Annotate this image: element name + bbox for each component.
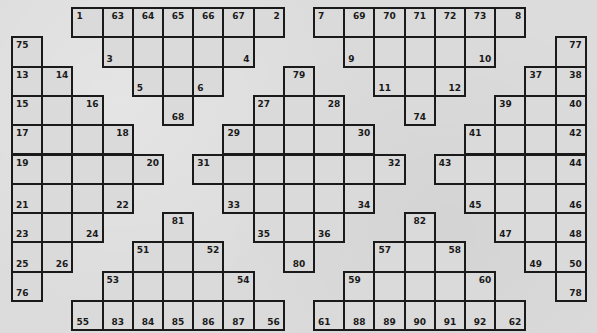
crossword-cell[interactable]: [71, 154, 103, 185]
crossword-cell[interactable]: [373, 36, 405, 67]
crossword-cell[interactable]: 9: [343, 36, 375, 67]
crossword-cell[interactable]: [162, 66, 194, 97]
crossword-cell[interactable]: [524, 95, 556, 126]
crossword-cell[interactable]: [524, 154, 556, 185]
crossword-cell[interactable]: [222, 154, 254, 185]
crossword-cell[interactable]: [162, 36, 194, 67]
crossword-cell[interactable]: 34: [343, 183, 375, 214]
crossword-cell[interactable]: 85: [162, 300, 194, 331]
crossword-cell[interactable]: 57: [373, 241, 405, 272]
crossword-cell[interactable]: 3: [102, 36, 134, 67]
crossword-cell[interactable]: 72: [434, 7, 466, 38]
crossword-cell[interactable]: 29: [222, 124, 254, 155]
crossword-cell[interactable]: 82: [404, 212, 436, 243]
crossword-cell[interactable]: [132, 36, 164, 67]
crossword-cell[interactable]: 51: [132, 241, 164, 272]
crossword-cell[interactable]: 10: [464, 36, 496, 67]
crossword-cell[interactable]: 4: [222, 36, 254, 67]
crossword-cell[interactable]: 79: [283, 66, 315, 97]
crossword-cell[interactable]: [283, 154, 315, 185]
crossword-cell[interactable]: 23: [11, 212, 43, 243]
crossword-cell[interactable]: 35: [253, 212, 285, 243]
crossword-cell[interactable]: 56: [253, 300, 285, 331]
crossword-cell[interactable]: 12: [434, 66, 466, 97]
crossword-cell[interactable]: 16: [71, 95, 103, 126]
crossword-cell[interactable]: 46: [555, 183, 587, 214]
crossword-cell[interactable]: 2: [253, 7, 285, 38]
crossword-cell[interactable]: 80: [283, 241, 315, 272]
crossword-cell[interactable]: [313, 124, 345, 155]
crossword-cell[interactable]: 65: [162, 7, 194, 38]
crossword-cell[interactable]: [373, 271, 405, 302]
crossword-cell[interactable]: 26: [41, 241, 73, 272]
crossword-cell[interactable]: [524, 183, 556, 214]
crossword-cell[interactable]: [162, 241, 194, 272]
crossword-cell[interactable]: 75: [11, 36, 43, 67]
crossword-cell[interactable]: [41, 183, 73, 214]
crossword-cell[interactable]: 5: [132, 66, 164, 97]
crossword-cell[interactable]: [192, 271, 224, 302]
crossword-cell[interactable]: 68: [162, 95, 194, 126]
crossword-cell[interactable]: [283, 212, 315, 243]
crossword-cell[interactable]: [494, 183, 526, 214]
crossword-cell[interactable]: 90: [404, 300, 436, 331]
crossword-cell[interactable]: [524, 124, 556, 155]
crossword-cell[interactable]: [343, 154, 375, 185]
crossword-cell[interactable]: 88: [343, 300, 375, 331]
crossword-cell[interactable]: 36: [313, 212, 345, 243]
crossword-cell[interactable]: [464, 154, 496, 185]
crossword-cell[interactable]: 81: [162, 212, 194, 243]
crossword-cell[interactable]: 78: [555, 271, 587, 302]
crossword-cell[interactable]: [71, 183, 103, 214]
crossword-cell[interactable]: [434, 271, 466, 302]
crossword-cell[interactable]: 45: [464, 183, 496, 214]
crossword-cell[interactable]: 55: [71, 300, 103, 331]
crossword-cell[interactable]: [434, 36, 466, 67]
crossword-cell[interactable]: [404, 271, 436, 302]
crossword-cell[interactable]: [283, 124, 315, 155]
crossword-cell[interactable]: 24: [71, 212, 103, 243]
crossword-cell[interactable]: 84: [132, 300, 164, 331]
crossword-cell[interactable]: [192, 36, 224, 67]
crossword-cell[interactable]: 28: [313, 95, 345, 126]
crossword-cell[interactable]: 18: [102, 124, 134, 155]
crossword-cell[interactable]: [404, 241, 436, 272]
crossword-cell[interactable]: [162, 271, 194, 302]
crossword-cell[interactable]: 54: [222, 271, 254, 302]
crossword-cell[interactable]: 69: [343, 7, 375, 38]
crossword-cell[interactable]: [494, 154, 526, 185]
crossword-cell[interactable]: 86: [192, 300, 224, 331]
crossword-cell[interactable]: 91: [434, 300, 466, 331]
crossword-cell[interactable]: 40: [555, 95, 587, 126]
crossword-cell[interactable]: [313, 183, 345, 214]
crossword-cell[interactable]: 7: [313, 7, 345, 38]
crossword-cell[interactable]: 33: [222, 183, 254, 214]
crossword-cell[interactable]: 53: [102, 271, 134, 302]
crossword-cell[interactable]: 13: [11, 66, 43, 97]
crossword-cell[interactable]: 27: [253, 95, 285, 126]
crossword-cell[interactable]: [283, 183, 315, 214]
crossword-cell[interactable]: 50: [555, 241, 587, 272]
crossword-cell[interactable]: 74: [404, 95, 436, 126]
crossword-cell[interactable]: 41: [464, 124, 496, 155]
crossword-cell[interactable]: [41, 95, 73, 126]
crossword-cell[interactable]: 92: [464, 300, 496, 331]
crossword-cell[interactable]: 21: [11, 183, 43, 214]
crossword-cell[interactable]: 20: [132, 154, 164, 185]
crossword-cell[interactable]: 32: [373, 154, 405, 185]
crossword-cell[interactable]: 47: [494, 212, 526, 243]
crossword-cell[interactable]: 70: [373, 7, 405, 38]
crossword-cell[interactable]: [283, 95, 315, 126]
crossword-cell[interactable]: [404, 66, 436, 97]
crossword-cell[interactable]: 48: [555, 212, 587, 243]
crossword-cell[interactable]: 52: [192, 241, 224, 272]
crossword-cell[interactable]: 39: [494, 95, 526, 126]
crossword-cell[interactable]: 25: [11, 241, 43, 272]
crossword-cell[interactable]: [41, 124, 73, 155]
crossword-cell[interactable]: [41, 212, 73, 243]
crossword-cell[interactable]: 87: [222, 300, 254, 331]
crossword-cell[interactable]: [313, 154, 345, 185]
crossword-cell[interactable]: 15: [11, 95, 43, 126]
crossword-cell[interactable]: 6: [192, 66, 224, 97]
crossword-cell[interactable]: 30: [343, 124, 375, 155]
